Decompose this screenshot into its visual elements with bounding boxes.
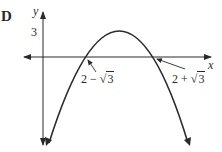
right-root-label: 2 + √3 bbox=[172, 73, 205, 85]
y-tick-3: 3 bbox=[31, 26, 37, 38]
sqrt-symbol: √ bbox=[191, 73, 198, 85]
left-root-prefix: 2 − bbox=[81, 72, 100, 86]
left-root-label: 2 − √3 bbox=[81, 73, 114, 85]
left-root-pointer bbox=[88, 60, 96, 72]
parabola-curve bbox=[49, 31, 188, 143]
left-root-radicand: 3 bbox=[106, 71, 114, 86]
option-letter: D bbox=[1, 9, 12, 24]
x-axis-label: x bbox=[208, 59, 213, 71]
right-root-radicand: 3 bbox=[197, 71, 205, 86]
parabola-figure: D y x 3 2 − √3 2 + √3 bbox=[0, 0, 222, 152]
sqrt-symbol: √ bbox=[100, 73, 107, 85]
right-root-pointer bbox=[157, 59, 185, 69]
y-axis-label: y bbox=[33, 5, 38, 17]
curve-arrow-right bbox=[184, 137, 191, 146]
right-root-prefix: 2 + bbox=[172, 72, 191, 86]
